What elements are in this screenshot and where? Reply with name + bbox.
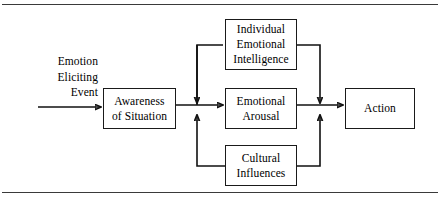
figure-container: Emotion Eliciting Event Awareness of Sit… [0, 0, 440, 207]
edge-cultural-to-action [297, 115, 320, 166]
node-cultural-label: Cultural Influences [234, 151, 289, 180]
node-iei-label: Individual Emotional Intelligence [230, 22, 291, 66]
edge-cultural-to-arousal [197, 115, 225, 166]
node-emotional-arousal: Emotional Arousal [225, 88, 297, 129]
node-arousal-label: Emotional Arousal [234, 94, 289, 123]
node-action-label: Action [361, 101, 399, 116]
node-action: Action [345, 88, 415, 129]
node-cultural-influences: Cultural Influences [225, 145, 297, 186]
node-awareness-label: Awareness of Situation [109, 94, 170, 123]
node-individual-emotional-intelligence: Individual Emotional Intelligence [225, 19, 297, 70]
node-awareness-of-situation: Awareness of Situation [103, 88, 176, 129]
edge-awareness-to-iei [197, 45, 223, 105]
edge-iei-to-action [297, 45, 320, 103]
